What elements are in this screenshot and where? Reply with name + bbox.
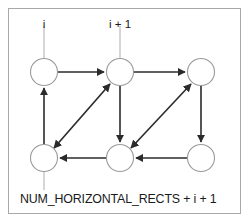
edge-bidirectional-bottom-middle-top-right xyxy=(131,84,191,148)
screenshot-root: i i + 1 NUM_HORIZONTAL_RECTS + i + 1 xyxy=(0,0,251,224)
edge-bidirectional-bottom-left-top-middle xyxy=(54,84,110,148)
node-bottom-middle xyxy=(107,145,134,172)
label-i: i xyxy=(43,18,46,30)
node-top-right xyxy=(188,59,215,86)
node-bottom-right xyxy=(188,145,215,172)
graph-nodes xyxy=(31,59,215,172)
graph-diagram: i i + 1 NUM_HORIZONTAL_RECTS + i + 1 xyxy=(0,0,251,224)
node-top-left xyxy=(31,59,58,86)
label-i-plus-1: i + 1 xyxy=(109,18,131,30)
node-top-middle xyxy=(107,59,134,86)
caption-num-horizontal-rects: NUM_HORIZONTAL_RECTS + i + 1 xyxy=(20,192,217,206)
node-bottom-left xyxy=(31,145,58,172)
